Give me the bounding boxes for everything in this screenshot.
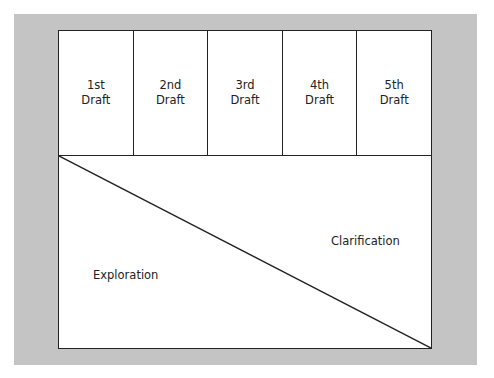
draft-cell-2: 2nd Draft [134, 31, 209, 155]
draft-label: 5th Draft [380, 78, 409, 108]
draft-cell-5: 5th Draft [357, 31, 431, 155]
draft-cell-4: 4th Draft [283, 31, 358, 155]
draft-label: 4th Draft [305, 78, 334, 108]
clarification-label: Clarification [331, 234, 400, 248]
draft-process-diagram: 1st Draft 2nd Draft 3rd Draft 4th Draft … [58, 30, 432, 349]
draft-cell-3: 3rd Draft [208, 31, 283, 155]
draft-label: 3rd Draft [230, 78, 259, 108]
draft-label: 2nd Draft [156, 78, 185, 108]
diagonal-divider [59, 156, 431, 348]
exploration-label: Exploration [93, 268, 158, 282]
process-area: Exploration Clarification [59, 156, 431, 348]
drafts-row: 1st Draft 2nd Draft 3rd Draft 4th Draft … [59, 31, 431, 156]
draft-cell-1: 1st Draft [59, 31, 134, 155]
draft-label: 1st Draft [81, 78, 110, 108]
